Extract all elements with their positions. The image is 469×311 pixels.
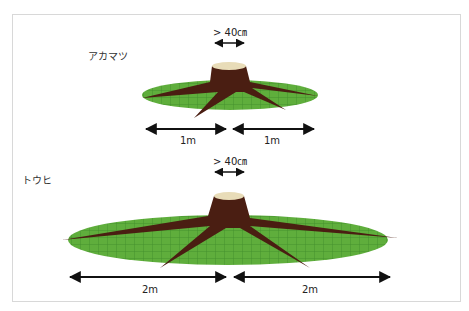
touhi-diagram (62, 172, 398, 277)
species-label-akamatsu: アカマツ (88, 48, 128, 63)
radius-left-touhi: 2m (142, 284, 158, 295)
radius-right-touhi: 2m (302, 284, 318, 295)
trunk-label-touhi: > 40㎝ (213, 153, 247, 168)
trunk-label-akamatsu: > 40㎝ (213, 24, 247, 39)
radius-left-akamatsu: 1m (180, 135, 196, 146)
radius-right-akamatsu: 1m (264, 135, 280, 146)
akamatsu-diagram (142, 43, 318, 129)
species-label-touhi: トウヒ (22, 172, 52, 187)
